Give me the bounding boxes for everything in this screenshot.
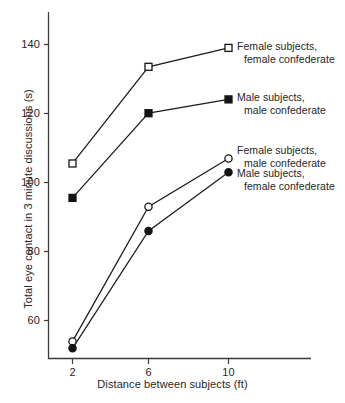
legend-line-1: Female subjects, xyxy=(237,40,317,52)
x-tick-label-10: 10 xyxy=(213,366,244,378)
series-female-female xyxy=(69,44,232,167)
series-male-female xyxy=(69,169,232,352)
data-point-marker xyxy=(145,63,152,70)
legend-line-1: Male subjects, xyxy=(237,167,305,179)
legend-label-female-female: Female subjects, female confederate xyxy=(237,40,335,66)
legend-line-1: Male subjects, xyxy=(237,91,305,103)
legend-line-2: female confederate xyxy=(237,180,335,193)
data-point-marker xyxy=(69,194,76,201)
legend-label-male-male: Male subjects, male confederate xyxy=(237,91,326,117)
x-tick-marks xyxy=(73,359,229,365)
legend-line-1: Female subjects, xyxy=(237,144,317,156)
x-tick-label-6: 6 xyxy=(133,366,164,378)
y-tick-marks xyxy=(44,45,49,321)
legend-label-male-female: Male subjects, female confederate xyxy=(237,167,335,193)
data-point-marker xyxy=(225,155,232,162)
legend-line-2: female confederate xyxy=(237,53,335,66)
data-point-marker xyxy=(145,203,152,210)
data-point-marker xyxy=(145,227,152,234)
data-point-marker xyxy=(225,44,232,51)
data-point-marker xyxy=(225,169,232,176)
y-axis-title: Total eye contact in 3 minute discussion… xyxy=(22,49,34,349)
x-axis-title: Distance between subjects (ft) xyxy=(0,378,345,390)
data-point-marker xyxy=(69,160,76,167)
legend-line-2: male confederate xyxy=(237,104,326,117)
data-point-marker xyxy=(69,345,76,352)
data-point-marker xyxy=(225,96,232,103)
x-tick-label-2: 2 xyxy=(57,366,88,378)
line-chart: 140 120 100 80 60 2 6 10 Distance betwee… xyxy=(0,0,345,403)
series-male-male xyxy=(69,96,232,201)
data-point-marker xyxy=(145,110,152,117)
